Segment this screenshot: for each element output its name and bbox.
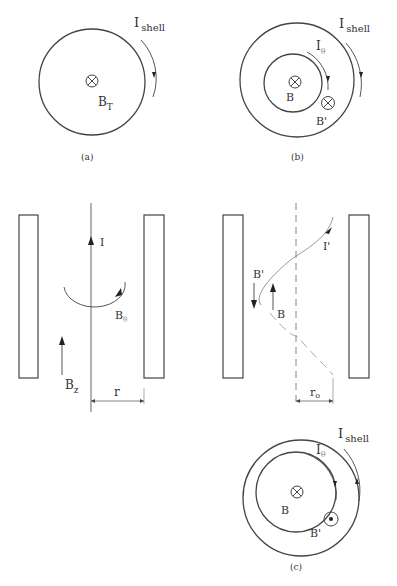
shell-current-arrow [344, 449, 360, 501]
arrowhead-icon [251, 300, 257, 309]
radius-label: ro [310, 386, 320, 400]
panel-c: B B' Iθ Ishell (c) [243, 426, 369, 572]
into-page-icon [86, 75, 98, 87]
wall-left [19, 215, 38, 378]
inner-current-arrow [307, 52, 328, 90]
arrowhead-icon [59, 336, 65, 345]
field-label-b: B [286, 91, 294, 104]
field-label-b: B [281, 504, 289, 517]
azimuthal-field-arrow [64, 282, 125, 307]
inner-current-label: Iθ [316, 39, 326, 56]
field-label-b-prime: B' [316, 115, 327, 128]
plasma-diagram: BT Ishell (a) B B' Iθ Ishell (b) [0, 0, 397, 586]
shell-circle [243, 440, 359, 556]
wall-right [349, 215, 369, 378]
arrowhead-icon [326, 76, 330, 82]
into-page-icon [291, 486, 303, 498]
azimuthal-field-label: Bθ [115, 309, 127, 324]
arrowhead-icon [152, 72, 156, 78]
panel-straight-current: I Bθ Bz r [19, 203, 164, 412]
wall-left [223, 215, 243, 378]
arrowhead-icon [359, 72, 363, 78]
current-label: I [100, 236, 104, 249]
into-page-icon [289, 76, 301, 88]
field-label-bt: BT [98, 95, 113, 112]
arrowhead-icon [333, 481, 337, 487]
field-label-b: B [277, 308, 285, 321]
radius-label: r [114, 385, 120, 399]
axial-field-label: Bz [65, 378, 79, 395]
shell-current-label: Ishell [339, 16, 370, 34]
helical-current-path-hidden [270, 313, 333, 375]
arrowhead-icon [88, 236, 94, 245]
shell-circle [39, 29, 145, 135]
caption-b: (b) [291, 152, 304, 162]
shell-current-label: Ishell [134, 15, 165, 33]
caption-c: (c) [290, 562, 302, 572]
arrowhead-icon [270, 283, 276, 292]
field-label-b-prime: B' [253, 268, 264, 281]
shell-current-label: Ishell [338, 426, 369, 444]
panel-a: BT Ishell (a) [39, 15, 165, 162]
helical-current-label: I' [323, 240, 330, 253]
panel-helical-current: I' B' B ro [223, 203, 369, 404]
field-label-b-prime: B' [310, 527, 321, 540]
caption-a: (a) [81, 152, 93, 162]
panel-b: B B' Iθ Ishell (b) [240, 16, 370, 162]
wall-right [144, 215, 164, 378]
into-page-icon [322, 97, 335, 110]
